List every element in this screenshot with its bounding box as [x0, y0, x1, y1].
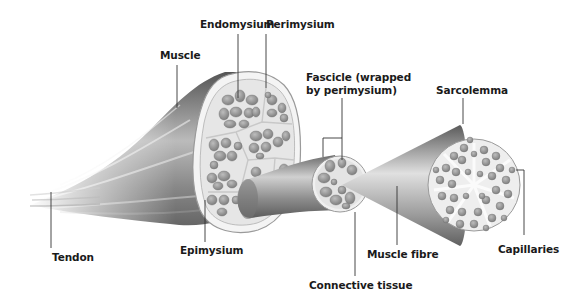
label-sarcolemma: Sarcolemma [436, 84, 508, 97]
label-fascicle-line2: by perimysium) [306, 84, 397, 97]
label-endomysium: Endomysium [200, 18, 274, 31]
label-epimysium: Epimysium [180, 244, 243, 257]
muscle-fibre-cone [342, 125, 520, 246]
label-fascicle-line1: Fascicle (wrapped [306, 71, 411, 84]
label-tendon: Tendon [52, 251, 94, 264]
label-muscle-fibre: Muscle fibre [367, 248, 439, 261]
muscle-structure-diagram: Endomysium Perimysium Muscle Fascicle (w… [0, 0, 584, 306]
label-muscle: Muscle [160, 49, 201, 62]
label-connective-tissue: Connective tissue [309, 279, 412, 292]
label-perimysium: Perimysium [266, 18, 335, 31]
label-capillaries: Capillaries [498, 243, 559, 256]
